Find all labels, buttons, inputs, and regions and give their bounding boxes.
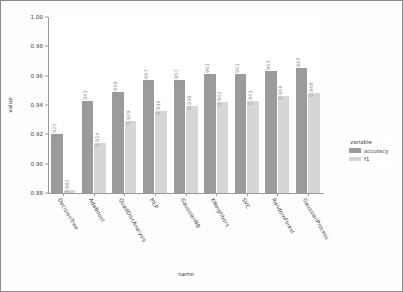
x-tick-label-AdaBoost: AdaBoost [88, 197, 106, 223]
x-tick-label-QuadDiscAnalysis: QuadDiscAnalysis [118, 197, 148, 243]
legend-swatch-accuracy [349, 148, 361, 153]
bar-f1-MLP [155, 111, 167, 193]
bar-value-label: 0.943 [247, 90, 253, 105]
bar-f1-AdaBoost [94, 143, 106, 193]
bar-f1-RandomForest [278, 96, 290, 193]
y-tick-label: 0.88 [31, 190, 46, 196]
bar-value-label: 0.920 [51, 124, 57, 139]
bar-f1-GaussianProcess [308, 93, 320, 193]
bar-value-label: 0.943 [82, 90, 88, 105]
bar-accuracy-DecisionTree [51, 134, 63, 193]
legend: variable accuracyf1 [346, 137, 396, 168]
bar-accuracy-QuadDiscAnalysis [112, 92, 124, 193]
x-tick-label-SVC: SVC [240, 197, 251, 210]
y-tick-mark [45, 46, 48, 47]
y-tick-label: 0.92 [31, 131, 46, 137]
bar-value-label: 0.946 [277, 85, 283, 100]
y-tick-mark [45, 163, 48, 164]
x-tick-mark [124, 193, 125, 196]
x-tick-mark [247, 193, 248, 196]
bar-accuracy-GaussianNB [174, 80, 186, 193]
bar-accuracy-MLP [143, 80, 155, 193]
x-tick-mark [277, 193, 278, 196]
x-tick-label-GaussianNB: GaussianNB [179, 197, 201, 229]
x-tick-label-RandomForest: RandomForest [271, 197, 296, 235]
bar-f1-QuadDiscAnalysis [125, 121, 137, 193]
legend-entries: accuracyf1 [349, 148, 393, 163]
bar-value-label: 0.949 [112, 81, 118, 96]
bar-accuracy-AdaBoost [82, 101, 94, 193]
bar-value-label: 0.942 [216, 91, 222, 106]
bar-f1-GaussianNB [186, 106, 198, 193]
bar-value-label: 0.961 [204, 63, 210, 78]
y-axis-line [48, 17, 49, 194]
bar-value-label: 0.963 [265, 60, 271, 75]
y-tick-mark [45, 105, 48, 106]
x-tick-label-DecisionTree: DecisionTree [57, 197, 80, 231]
bar-value-label: 0.957 [173, 69, 179, 84]
legend-item-accuracy[interactable]: accuracy [349, 148, 393, 154]
bar-value-label: 0.936 [155, 100, 161, 115]
x-axis-title: name [178, 271, 194, 277]
y-tick-mark [45, 134, 48, 135]
bar-value-label: 0.948 [308, 82, 314, 97]
bar-accuracy-SVC [235, 74, 247, 193]
bar-value-label: 0.914 [94, 132, 100, 147]
bar-accuracy-GaussianProcess [296, 68, 308, 193]
y-tick-mark [45, 75, 48, 76]
y-axis-title: value [7, 97, 13, 112]
x-tick-mark [63, 193, 64, 196]
bar-value-label: 0.882 [64, 179, 70, 194]
x-tick-mark [186, 193, 187, 196]
bar-accuracy-KNeighbors [204, 74, 216, 193]
y-tick-label: 0.94 [31, 102, 46, 108]
x-tick-mark [308, 193, 309, 196]
legend-label: accuracy [364, 148, 388, 154]
x-tick-label-GaussianProcess: GaussianProcess [302, 197, 331, 240]
bar-f1-SVC [247, 101, 259, 193]
y-tick-mark [45, 193, 48, 194]
bar-accuracy-RandomForest [265, 71, 277, 193]
bar-value-label: 0.961 [234, 63, 240, 78]
x-tick-mark [216, 193, 217, 196]
y-tick-mark [45, 17, 48, 18]
legend-label: f1 [364, 156, 369, 162]
legend-title: variable [349, 139, 393, 145]
y-tick-label: 0.98 [31, 43, 46, 49]
legend-swatch-f1 [349, 157, 361, 162]
x-tick-mark [155, 193, 156, 196]
bar-value-label: 0.939 [186, 96, 192, 111]
x-tick-label-KNeighbors: KNeighbors [210, 197, 231, 228]
bar-value-label: 0.929 [125, 110, 131, 125]
bar-value-label: 0.957 [143, 69, 149, 84]
y-tick-label: 0.96 [31, 73, 46, 79]
y-tick-label: 0.90 [31, 161, 46, 167]
bar-value-label: 0.965 [295, 58, 301, 73]
x-tick-label-MLP: MLP [149, 197, 160, 210]
x-tick-mark [94, 193, 95, 196]
y-tick-label: 1.00 [31, 14, 46, 20]
legend-item-f1[interactable]: f1 [349, 156, 393, 162]
bar-f1-KNeighbors [217, 102, 229, 193]
chart-figure: 1.000.980.960.940.920.900.88 0.9200.8820… [0, 0, 403, 292]
